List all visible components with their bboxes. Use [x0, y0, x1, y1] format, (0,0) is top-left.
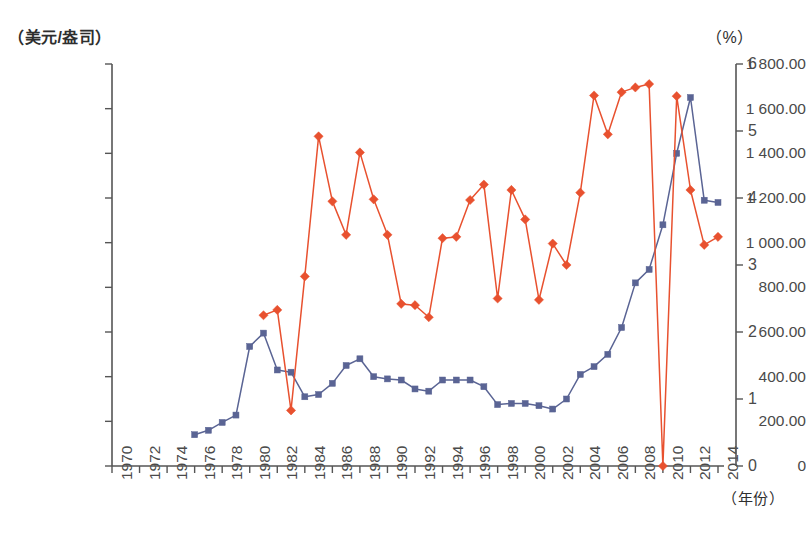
- data-point: [205, 427, 211, 433]
- data-point: [536, 403, 542, 409]
- data-point: [589, 91, 598, 100]
- data-point: [233, 412, 239, 418]
- data-point: [342, 230, 351, 239]
- data-point: [273, 305, 282, 314]
- data-point: [713, 232, 722, 241]
- data-point: [700, 240, 709, 249]
- data-point: [357, 356, 363, 362]
- data-point: [617, 88, 626, 97]
- data-point: [274, 367, 280, 373]
- data-point: [564, 396, 570, 402]
- data-point: [632, 280, 638, 286]
- data-point: [591, 364, 597, 370]
- data-point: [316, 392, 322, 398]
- plot-area: [0, 0, 806, 546]
- data-point: [219, 419, 225, 425]
- data-point: [452, 232, 461, 241]
- data-point: [286, 406, 295, 415]
- data-point: [328, 197, 337, 206]
- data-point: [192, 432, 198, 438]
- data-point: [660, 222, 666, 228]
- data-point: [534, 295, 543, 304]
- data-point: [687, 95, 693, 101]
- data-point: [453, 377, 459, 383]
- data-point: [302, 394, 308, 400]
- data-point: [686, 185, 695, 194]
- data-point: [521, 215, 530, 224]
- data-point: [495, 402, 501, 408]
- data-point: [398, 377, 404, 383]
- data-point: [426, 388, 432, 394]
- data-point: [493, 294, 502, 303]
- data-point: [329, 380, 335, 386]
- data-point: [412, 386, 418, 392]
- data-point: [383, 230, 392, 239]
- data-point: [261, 330, 267, 336]
- data-point: [507, 185, 516, 194]
- series-gold-price: [192, 95, 721, 438]
- series-layer: [192, 80, 723, 471]
- data-point: [522, 400, 528, 406]
- data-point: [715, 199, 721, 205]
- data-point: [314, 132, 323, 141]
- data-point: [631, 83, 640, 92]
- data-point: [467, 377, 473, 383]
- data-point: [550, 406, 556, 412]
- data-point: [672, 92, 681, 101]
- data-point: [508, 400, 514, 406]
- data-point: [481, 384, 487, 390]
- data-point: [645, 80, 654, 89]
- data-point: [577, 371, 583, 377]
- data-point: [603, 130, 612, 139]
- data-point: [384, 376, 390, 382]
- data-point: [397, 299, 406, 308]
- data-point: [440, 377, 446, 383]
- data-point: [343, 363, 349, 369]
- data-point: [646, 266, 652, 272]
- data-point: [605, 351, 611, 357]
- gold-price-chart: （美元/盎司） （%） （年份） 0200.00400.00600.00800.…: [0, 0, 806, 546]
- data-point: [300, 272, 309, 281]
- data-point: [701, 197, 707, 203]
- data-point: [438, 234, 447, 243]
- data-point: [658, 461, 667, 470]
- series-percent: [259, 80, 723, 471]
- data-point: [562, 260, 571, 269]
- data-point: [247, 344, 253, 350]
- data-point: [576, 188, 585, 197]
- data-point: [619, 325, 625, 331]
- data-point: [288, 369, 294, 375]
- data-point: [259, 311, 268, 320]
- data-point: [548, 239, 557, 248]
- data-point: [371, 374, 377, 380]
- data-point: [369, 195, 378, 204]
- data-point: [355, 148, 364, 157]
